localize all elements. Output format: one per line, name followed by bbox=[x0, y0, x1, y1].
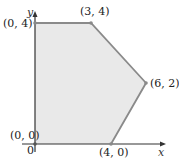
vertex-label-4-0: (4, 0) bbox=[99, 146, 129, 159]
vertex-label-3-4: (3, 4) bbox=[80, 5, 110, 18]
vertex-label-0-4: (0, 4) bbox=[3, 17, 33, 30]
vertex-label-0-0: (0, 0) bbox=[10, 129, 40, 142]
vertex-dot bbox=[144, 81, 148, 85]
origin-label: 0 bbox=[27, 144, 34, 157]
vertex-dot bbox=[33, 21, 37, 25]
feasible-region bbox=[35, 23, 146, 144]
x-axis-label: x bbox=[158, 146, 165, 159]
vertex-dot bbox=[89, 21, 93, 25]
y-axis-arrow-icon bbox=[33, 11, 38, 17]
feasible-region-diagram: y x 0 (0, 4) (3, 4) (6, 2) (0, 0) (4, 0) bbox=[0, 0, 179, 159]
vertex-label-6-2: (6, 2) bbox=[150, 77, 179, 90]
